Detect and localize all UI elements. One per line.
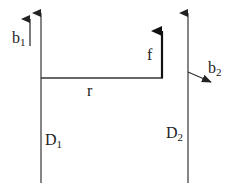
dislocation-diagram: b1 f r b2 D1 D2 [0,0,233,191]
label-b1: b1 [12,29,26,48]
label-r: r [87,82,93,99]
label-d2: D2 [166,124,183,143]
label-d1: D1 [45,131,62,150]
label-f: f [147,46,153,63]
label-b2: b2 [208,59,222,78]
